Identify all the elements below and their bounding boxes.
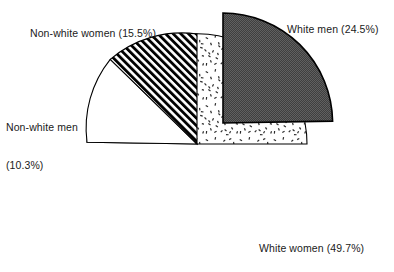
pie-label-non-white-men: Non-white men (10.3%)	[6, 96, 78, 196]
pie-label-non-white-men-line1: Non-white men	[6, 121, 78, 134]
pie-label-white-women: White women (49.7%)	[259, 242, 364, 255]
pie-label-non-white-men-line2: (10.3%)	[6, 159, 78, 172]
pie-label-white-men: White men (24.5%)	[287, 23, 379, 36]
pie-label-non-white-women: Non-white women (15.5%)	[30, 27, 156, 40]
pie-chart: White men (24.5%) Non-white women (15.5%…	[0, 0, 394, 272]
